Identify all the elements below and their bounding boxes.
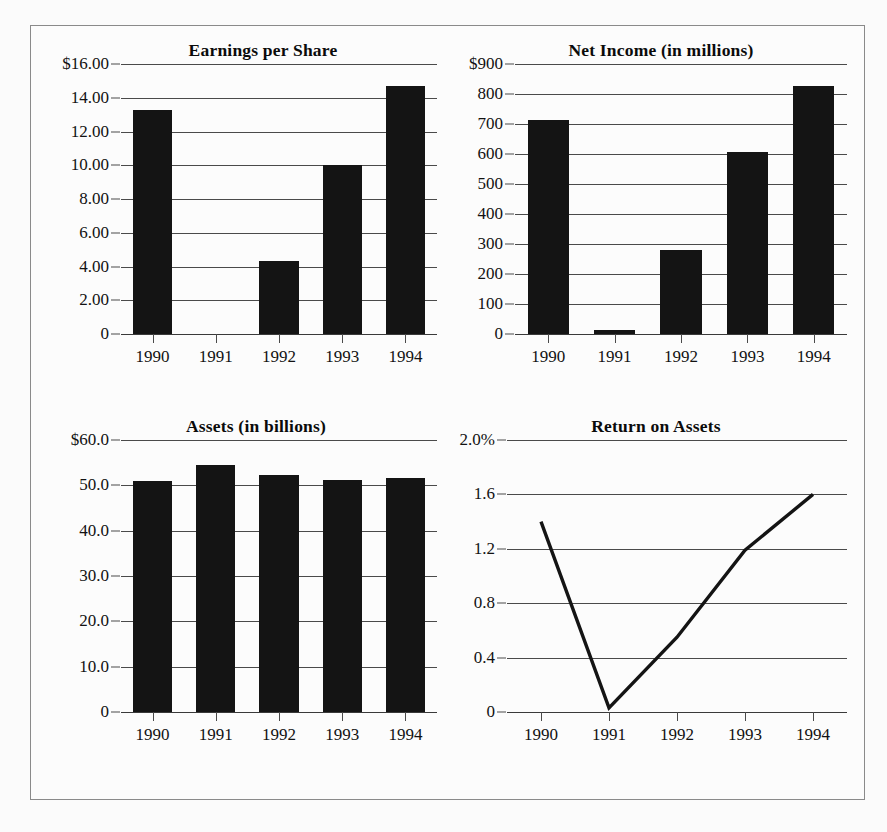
x-tick-label: 1990 [136,347,170,367]
y-tick-mark [111,666,120,667]
y-tick-mark [111,199,120,200]
y-tick-mark [111,440,120,441]
y-tick-label: 300 [478,234,504,254]
x-tick-label: 1991 [199,725,233,745]
bar [259,261,298,334]
y-tick-label: 0 [495,324,504,344]
y-tick-mark [111,64,120,65]
y-tick-mark [111,621,120,622]
y-tick-mark [505,304,514,305]
plot-area-earnings-per-share: $16.0014.0012.0010.008.006.004.002.00019… [45,64,445,382]
x-tick-mark [541,712,542,721]
y-tick-mark [111,266,120,267]
y-tick-mark [505,214,514,215]
x-tick-label: 1992 [262,725,296,745]
x-tick-mark [615,334,616,343]
x-tick-mark [609,712,610,721]
x-tick-label: 1992 [660,725,694,745]
gridline [515,64,847,65]
plot-canvas-earnings-per-share: 19901991199219931994 [121,64,437,382]
y-tick-label: $60.0 [71,430,109,450]
y-tick-mark [111,530,120,531]
y-tick-label: $16.00 [62,54,109,74]
bar [727,152,768,334]
x-tick-mark [405,334,406,343]
y-tick-label: 10.0 [79,657,109,677]
y-tick-mark [111,485,120,486]
chart-panel-net-income: Net Income (in millions) $90080070060050… [445,38,855,410]
y-tick-mark [505,64,514,65]
y-tick-label: 400 [478,204,504,224]
y-tick-mark [497,603,506,604]
y-tick-label: 600 [478,144,504,164]
y-tick-label: 4.00 [79,257,109,277]
x-tick-mark [405,712,406,721]
y-axis-labels-net-income: $9008007006005004003002001000 [445,64,503,382]
y-tick-mark [505,94,514,95]
y-tick-label: 0.8 [474,593,495,613]
bar [386,478,425,712]
plot-canvas-net-income: 19901991199219931994 [515,64,847,382]
y-tick-label: 12.00 [71,122,109,142]
y-tick-label: 20.0 [79,611,109,631]
y-tick-label: 0 [101,702,110,722]
y-tick-mark [111,165,120,166]
y-tick-mark [497,440,506,441]
y-tick-label: 100 [478,294,504,314]
bar [323,165,362,334]
y-tick-mark [111,97,120,98]
y-tick-label: 2.00 [79,290,109,310]
y-tick-label: 10.00 [71,155,109,175]
y-tick-mark [111,576,120,577]
x-tick-mark [216,334,217,343]
chart-panel-earnings-per-share: Earnings per Share $16.0014.0012.0010.00… [45,38,445,410]
x-tick-mark [216,712,217,721]
bar [793,86,834,334]
chart-panel-return-on-assets: Return on Assets 2.0%1.61.20.80.40199019… [445,414,855,788]
plot-area-assets: $60.050.040.030.020.010.0019901991199219… [45,440,445,760]
y-tick-mark [111,232,120,233]
plot-canvas-assets: 19901991199219931994 [121,440,437,760]
x-tick-label: 1994 [388,725,422,745]
y-tick-label: 40.0 [79,521,109,541]
bar [133,110,172,334]
y-axis-labels-assets: $60.050.040.030.020.010.00 [45,440,109,760]
gridline [121,440,437,441]
x-tick-mark [153,712,154,721]
chart-title-return-on-assets: Return on Assets [445,414,855,438]
x-tick-label: 1991 [199,347,233,367]
x-tick-mark [548,334,549,343]
y-tick-label: $900 [469,54,503,74]
y-tick-mark [505,184,514,185]
y-tick-mark [505,244,514,245]
bar [196,465,235,712]
y-tick-mark [497,657,506,658]
x-tick-mark [342,712,343,721]
y-tick-label: 0 [487,702,496,722]
y-tick-label: 50.0 [79,475,109,495]
x-tick-mark [747,334,748,343]
y-tick-mark [497,712,506,713]
x-tick-label: 1994 [796,725,830,745]
x-tick-label: 1992 [262,347,296,367]
y-tick-label: 2.0% [460,430,495,450]
bar [133,481,172,712]
y-tick-label: 14.00 [71,88,109,108]
y-tick-mark [505,154,514,155]
y-tick-label: 6.00 [79,223,109,243]
gridline [121,64,437,65]
x-tick-mark [814,334,815,343]
x-tick-label: 1993 [728,725,762,745]
bar [259,475,298,712]
x-tick-mark [681,334,682,343]
plot-area-return-on-assets: 2.0%1.61.20.80.4019901991199219931994 [445,440,855,760]
x-tick-label: 1993 [325,347,359,367]
x-tick-label: 1994 [797,347,831,367]
x-tick-label: 1993 [730,347,764,367]
y-tick-label: 30.0 [79,566,109,586]
y-tick-label: 1.6 [474,484,495,504]
y-tick-mark [111,334,120,335]
y-tick-label: 200 [478,264,504,284]
bar [528,120,569,335]
y-tick-label: 0 [101,324,110,344]
